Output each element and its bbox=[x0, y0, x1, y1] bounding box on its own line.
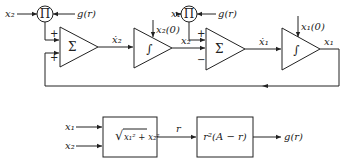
summer-1-sign-bottom: + bbox=[50, 52, 58, 63]
summer-1: Σ + + bbox=[45, 27, 98, 86]
block-diagram: x₂ Π g(r) Σ + + ẋ₂ ∫ x₂(0) x₂ x₁ Π g(r) bbox=[0, 0, 346, 166]
integral-icon: ∫ bbox=[146, 42, 153, 56]
bottom-output-label: g(r) bbox=[284, 131, 303, 142]
multiplier-2-input-right-label: g(r) bbox=[218, 8, 237, 19]
summer-2-triangle bbox=[206, 28, 245, 70]
integral-icon: ∫ bbox=[293, 43, 300, 57]
bottom-input-2-label: x₂ bbox=[65, 140, 75, 151]
summer-2-sign-top: + bbox=[197, 28, 205, 39]
signal-x1dot-label: ẋ₁ bbox=[259, 36, 269, 47]
sigma-icon: Σ bbox=[215, 42, 223, 56]
multiplier-1-input-left-label: x₂ bbox=[5, 8, 15, 19]
integrator-1: ∫ x₂(0) bbox=[134, 20, 180, 68]
integrator-1-initial-condition: x₂(0) bbox=[156, 24, 180, 35]
sigma-icon: Σ bbox=[68, 40, 76, 54]
product-icon: Π bbox=[184, 7, 194, 21]
gain-formula: r²(A − r) bbox=[203, 131, 246, 142]
integrator-2-triangle bbox=[282, 28, 320, 70]
sqrt-icon: √ bbox=[115, 128, 124, 143]
radius-formula: x₁² + x₂² bbox=[124, 132, 160, 142]
summer-1-sign-top: + bbox=[50, 28, 58, 39]
summer-1-triangle bbox=[60, 27, 98, 67]
integrator-2: ∫ x₁(0) bbox=[282, 16, 325, 70]
integrator-2-initial-condition: x₁(0) bbox=[301, 21, 325, 32]
product-icon: Π bbox=[40, 7, 50, 21]
signal-x2dot-label: ẋ₂ bbox=[112, 34, 122, 45]
multiplier-1-input-right-label: g(r) bbox=[77, 8, 96, 19]
summer-2: Σ + − bbox=[197, 28, 245, 70]
bottom-input-1-label: x₁ bbox=[65, 121, 75, 132]
output-x1-label: x₁ bbox=[324, 36, 334, 47]
nonlinearity-diagram: x₁ x₂ √ x₁² + x₂² r r²(A − r) g(r) bbox=[65, 117, 303, 157]
intermediate-r-label: r bbox=[176, 123, 182, 134]
summer-2-sign-bottom: − bbox=[197, 54, 205, 65]
